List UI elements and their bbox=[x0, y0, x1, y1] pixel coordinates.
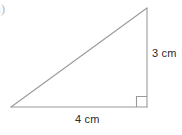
triangle-side-hypotenuse bbox=[11, 8, 147, 107]
side-label-height: 3 cm bbox=[152, 47, 177, 59]
right-angle-marker-icon bbox=[137, 97, 148, 108]
side-label-base: 4 cm bbox=[75, 113, 100, 125]
geometry-diagram-canvas: a) 3 cm 4 cm bbox=[0, 0, 182, 135]
item-label-marker: a) bbox=[0, 1, 5, 17]
